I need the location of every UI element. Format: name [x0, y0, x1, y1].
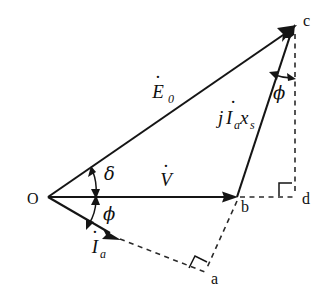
arrowhead-v: [222, 192, 238, 203]
angle-label-delta: δ: [104, 163, 115, 184]
label-e0-base: E: [151, 81, 164, 102]
right-angle-icon-at-d: [279, 183, 292, 196]
dashed-construction-lines: [120, 34, 295, 272]
label-ia-subscript: a: [100, 247, 106, 261]
phasor-terminal-voltage: [48, 192, 238, 203]
phasor-diagram-canvas: O b c d a · V · E 0 · I a: [0, 0, 333, 301]
label-jiaxs-j: j: [215, 107, 223, 128]
point-label-b: b: [241, 198, 249, 215]
phasor-internal-emf: [48, 25, 297, 197]
label-reactance-drop: j · I a x s: [215, 91, 255, 132]
label-ia-base: I: [91, 236, 100, 257]
right-angle-marks: [189, 183, 292, 268]
angle-labels: δ ϕ ϕ: [103, 82, 285, 224]
phasor-diagram-figure: O b c d a · V · E 0 · I a: [0, 0, 333, 301]
angle-label-phi-origin: ϕ: [103, 203, 115, 224]
arc-phi-top-arrowhead-left: [269, 71, 279, 80]
point-labels: O b c d a: [27, 12, 310, 287]
point-label-c: c: [303, 12, 310, 29]
phasor-line-ia: [48, 197, 110, 233]
point-label-d: d: [302, 190, 310, 207]
arrowhead-ia: [102, 229, 121, 240]
label-jiaxs-subscript-s: s: [250, 118, 255, 132]
angle-label-phi-top: ϕ: [273, 82, 285, 103]
dashed-line-b-to-a: [206, 201, 237, 270]
label-terminal-voltage: · V: [160, 155, 174, 190]
point-label-a: a: [211, 270, 218, 287]
angle-arcs: [86, 71, 296, 230]
phasor-labels: · V · E 0 · I a j · I a x s: [91, 66, 255, 261]
point-label-o: O: [27, 190, 39, 207]
label-internal-emf: · E 0: [151, 66, 174, 106]
label-jiaxs-x: x: [239, 107, 249, 128]
phasor-vectors: [48, 24, 297, 240]
label-e0-subscript: 0: [168, 92, 174, 106]
label-v-base: V: [160, 169, 174, 190]
dashed-line-ia-extension-to-a: [120, 239, 205, 272]
